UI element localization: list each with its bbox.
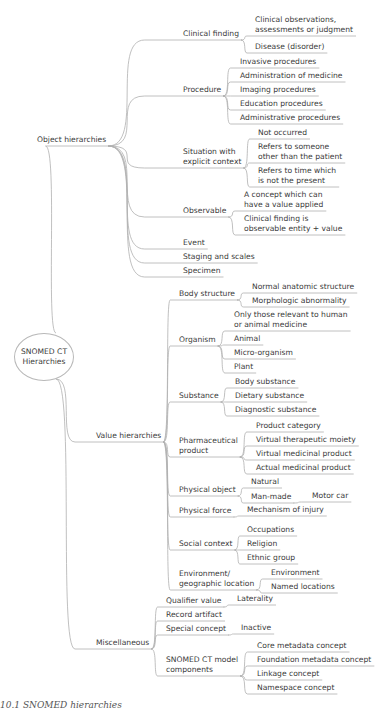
connector-cf xyxy=(108,40,242,146)
node-ev: Event xyxy=(183,238,205,248)
node-p1: Invasive procedures xyxy=(240,57,316,67)
node-p3: Imaging procedures xyxy=(240,85,316,95)
node-proc: Procedure xyxy=(183,85,221,95)
node-m2: Foundation metadata concept xyxy=(257,655,371,665)
node-cf1: Clinical observations,assessments or jud… xyxy=(255,15,353,35)
node-cf: Clinical finding xyxy=(183,29,239,39)
node-misc: Miscellaneous xyxy=(96,638,149,648)
figure-caption: 10.1 SNOMED hierarchies xyxy=(0,700,122,708)
root-label-line1: SNOMED CT xyxy=(21,347,67,357)
connector-q1 xyxy=(223,605,276,607)
node-h4: Actual medicinal product xyxy=(256,463,351,473)
node-m1: Core metadata concept xyxy=(257,641,347,651)
node-m3: Linkage concept xyxy=(257,669,319,679)
node-g4: Plant xyxy=(234,362,253,372)
node-m4: Namespace concept xyxy=(257,683,334,693)
connector-obj xyxy=(46,146,110,333)
node-spx: Special concept xyxy=(166,624,226,634)
node-g1: Only those relevant to humanor animal me… xyxy=(234,310,348,330)
node-n1: Natural xyxy=(251,477,279,487)
node-b2: Morphologic abnormality xyxy=(252,296,347,306)
node-mdl: SNOMED CT modelcomponents xyxy=(166,655,238,675)
node-n3: Motor car xyxy=(312,491,348,501)
node-val: Value hierarchies xyxy=(96,431,161,441)
connector-x1 xyxy=(228,634,274,635)
node-q1: Laterality xyxy=(237,594,273,604)
node-x1: Inactive xyxy=(241,623,271,633)
node-stg: Staging and scales xyxy=(183,252,255,262)
node-e2: Named locations xyxy=(271,582,335,592)
node-sit: Situation withexplicit context xyxy=(183,147,241,167)
node-obs: Observable xyxy=(183,206,226,216)
node-p2: Administration of medicine xyxy=(240,71,342,81)
node-bs: Body structure xyxy=(179,289,235,299)
node-env: Environment/geographic location xyxy=(179,569,254,589)
node-s2: Refers to someoneother than the patient xyxy=(258,142,342,162)
node-obj: Object hierarchies xyxy=(37,135,106,145)
connector-spx xyxy=(151,635,229,649)
node-n2: Man-made xyxy=(251,492,291,502)
node-b1: Normal anatomic structure xyxy=(252,282,354,292)
node-o1: A concept which canhave a value applied xyxy=(244,190,323,210)
node-h3: Virtual medicinal product xyxy=(256,449,352,459)
node-sub: Substance xyxy=(179,391,219,401)
node-c1: Occupations xyxy=(247,525,294,535)
node-u2: Dietary substance xyxy=(235,391,304,401)
connector-cf1 xyxy=(241,36,356,40)
node-s3: Refers to time whichis not the present xyxy=(258,166,336,186)
node-qv: Qualifier value xyxy=(166,596,221,606)
node-c3: Ethnic group xyxy=(247,553,295,563)
node-p5: Administrative procedures xyxy=(240,113,340,123)
connector-g2 xyxy=(218,345,264,346)
connector-misc xyxy=(56,379,152,649)
connector-f1 xyxy=(233,516,326,517)
node-o2: Clinical finding isobservable entity + v… xyxy=(244,214,342,234)
node-sc: Social context xyxy=(179,539,233,549)
node-p4: Education procedures xyxy=(240,99,323,109)
node-spc: Specimen xyxy=(183,266,220,276)
node-ra: Record artifact xyxy=(166,610,222,620)
root-label-line2: Hierarchies xyxy=(21,357,67,367)
node-h1: Product category xyxy=(256,421,321,431)
node-pf: Physical force xyxy=(179,506,231,516)
node-ph: Pharmaceuticalproduct xyxy=(179,436,238,456)
mind-map-canvas: SNOMED CT Hierarchies Object hierarchies… xyxy=(0,0,383,708)
node-s1: Not occurred xyxy=(258,128,307,138)
connector-n3 xyxy=(293,502,351,503)
node-c2: Religion xyxy=(247,539,277,549)
node-g2: Animal xyxy=(234,334,260,344)
node-u1: Body substance xyxy=(235,377,295,387)
root-node: SNOMED CT Hierarchies xyxy=(14,333,74,381)
node-org: Organism xyxy=(179,335,216,345)
node-po: Physical object xyxy=(179,485,236,495)
node-h2: Virtual therapeutic moiety xyxy=(256,435,356,445)
connector-bs xyxy=(163,300,238,442)
node-u3: Diagnostic substance xyxy=(235,405,316,415)
node-e1: Environment xyxy=(271,568,320,578)
node-g3: Micro-organism xyxy=(234,348,293,358)
node-f1: Mechanism of injury xyxy=(247,505,324,515)
node-cf2: Disease (disorder) xyxy=(255,42,324,52)
